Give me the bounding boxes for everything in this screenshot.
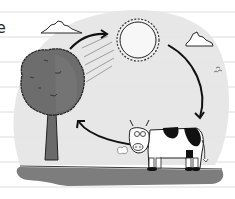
illustration-canvas <box>0 0 235 199</box>
sun-icon <box>117 19 159 61</box>
exhale-puff <box>117 147 127 154</box>
cycle-illustration: e <box>0 0 235 199</box>
